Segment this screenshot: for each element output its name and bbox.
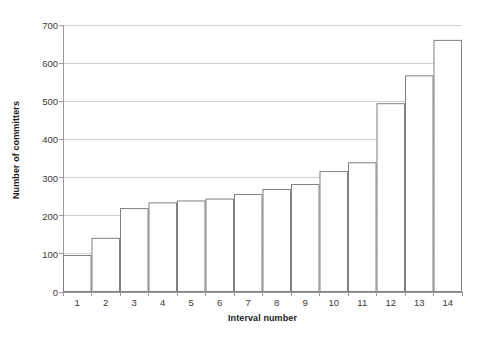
x-axis-tick-label: 6 — [206, 297, 235, 308]
x-axis-tick-label: 14 — [434, 297, 463, 308]
bar — [149, 203, 177, 292]
bar — [121, 209, 149, 292]
bar — [92, 238, 120, 291]
bar — [64, 256, 92, 292]
x-axis-tick-label: 10 — [320, 297, 349, 308]
bar — [178, 201, 206, 292]
x-axis-tick-label: 9 — [291, 297, 320, 308]
x-axis-tick-label: 11 — [348, 297, 377, 308]
x-axis-tick-label: 1 — [63, 297, 92, 308]
bar — [206, 199, 234, 291]
plot-area — [0, 0, 482, 342]
bar — [292, 185, 320, 292]
x-axis-tick-label: 2 — [92, 297, 121, 308]
x-axis-tick-label: 5 — [177, 297, 206, 308]
bar — [377, 104, 405, 292]
bar — [434, 40, 462, 291]
bar-chart: Number of committers 0100200300400500600… — [0, 0, 482, 342]
x-axis-tick-label: 8 — [263, 297, 292, 308]
x-axis-tick-label: 12 — [377, 297, 406, 308]
bar — [349, 163, 377, 292]
x-axis-tick-label: 3 — [120, 297, 149, 308]
x-axis-tick-label: 7 — [234, 297, 263, 308]
x-axis-tick-label: 4 — [149, 297, 178, 308]
bar — [320, 172, 348, 292]
bar — [406, 76, 434, 292]
x-axis-title: Interval number — [63, 313, 462, 323]
bar — [263, 190, 291, 292]
x-axis-tick-label: 13 — [405, 297, 434, 308]
bar — [235, 194, 263, 291]
